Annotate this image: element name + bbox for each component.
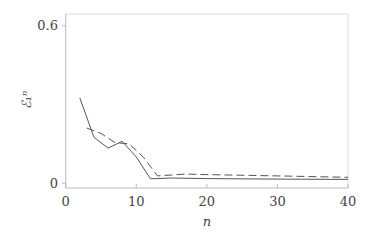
x-tick-label: 10 — [128, 194, 145, 209]
y-tick-label: 0 — [50, 176, 58, 191]
y-axis-ticks: 00.6 — [37, 18, 65, 191]
series-dashed-line — [87, 128, 348, 177]
series-solid-line — [80, 98, 348, 179]
x-tick-label: 20 — [199, 194, 216, 209]
data-series — [80, 98, 348, 179]
y-axis-label: ℰ₁ⁿ — [19, 91, 34, 109]
x-axis-label: n — [203, 214, 211, 229]
x-tick-label: 30 — [269, 194, 286, 209]
axes-frame — [66, 14, 348, 188]
x-tick-label: 40 — [340, 194, 357, 209]
y-tick-label: 0.6 — [37, 18, 58, 33]
line-chart: 010203040 00.6 n ℰ₁ⁿ — [0, 0, 373, 240]
x-tick-label: 0 — [62, 194, 70, 209]
